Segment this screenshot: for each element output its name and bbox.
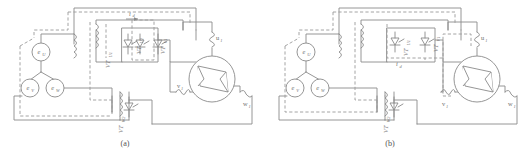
- source-ev-a: [21, 79, 39, 97]
- source-eu-a: [32, 43, 50, 61]
- source-ew-b: [311, 79, 329, 97]
- label-source-ew-b: e: [316, 84, 319, 91]
- caption-panel-a: (a): [120, 139, 129, 148]
- label-winding-w1-sub-b: 1: [514, 104, 516, 109]
- label-winding-w1-a: w: [243, 100, 248, 107]
- label-winding-u1-sub-b: 1: [485, 38, 487, 43]
- figure-root: e U e V e W VT U1 VT U2 VT V1 VT W2: [0, 0, 531, 153]
- label-source-eu-a: e: [38, 48, 41, 55]
- label-thyristor-vtv1-sub-b: V1: [436, 37, 441, 42]
- label-winding-u1-sub-a: 1: [220, 38, 222, 43]
- label-thyristor-vtv1-sub-a: V1: [163, 39, 168, 44]
- label-current-id-sub-a: d: [132, 13, 135, 18]
- label-winding-v1-sub-a: 1: [181, 86, 183, 91]
- label-winding-w1-sub-a: 1: [249, 104, 251, 109]
- label-current-id-sub-b: d: [399, 64, 402, 69]
- source-ew-a: [46, 79, 64, 97]
- label-source-ew-sub-a: W: [56, 88, 60, 93]
- panel-b: e U e V e W VT U1 VT V1 VT W2 i d u 1 v: [279, 8, 517, 148]
- label-current-id-b: i: [396, 60, 398, 67]
- label-source-eu-b: e: [303, 48, 306, 55]
- label-source-ev-a: e: [27, 84, 30, 91]
- label-thyristor-vtu2-sub-a: U2: [139, 37, 144, 43]
- label-thyristor-vtu1-b: VT: [402, 48, 409, 56]
- label-thyristor-vtw2-a: VT: [117, 125, 124, 133]
- panel-a: e U e V e W VT U1 VT U2 VT V1 VT W2: [14, 8, 252, 148]
- label-thyristor-vtv1-b: VT: [432, 44, 439, 52]
- label-source-ew-sub-b: W: [321, 88, 325, 93]
- source-eu-b: [297, 43, 315, 61]
- label-thyristor-vtw2-sub-b: W2: [386, 116, 391, 123]
- label-thyristor-vtu2-a: VT: [135, 46, 142, 54]
- label-thyristor-vtv1-a: VT: [159, 46, 166, 54]
- label-thyristor-vtu1-sub-b: U1: [406, 40, 411, 45]
- caption-panel-b: (b): [385, 139, 395, 148]
- label-winding-w1-b: w: [508, 100, 513, 107]
- label-thyristor-vtu1-sub-a: U1: [108, 52, 113, 57]
- label-thyristor-vtu1-a: VT: [104, 60, 111, 68]
- label-thyristor-vtw2-b: VT: [382, 125, 389, 133]
- source-ev-b: [286, 79, 304, 97]
- label-source-ev-b: e: [292, 84, 295, 91]
- circuit-diagram-figure: e U e V e W VT U1 VT U2 VT V1 VT W2: [0, 0, 531, 153]
- label-thyristor-vtw2-sub-a: W2: [121, 116, 126, 123]
- label-source-ew-a: e: [51, 84, 54, 91]
- label-current-id-a: i: [129, 10, 131, 17]
- label-winding-v1-sub-b: 1: [446, 104, 448, 109]
